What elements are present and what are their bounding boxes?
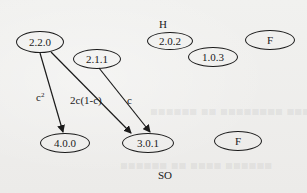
- edges-layer: [0, 0, 307, 193]
- node-label: 2.1.1: [86, 53, 108, 65]
- node-f-bottom: F: [214, 131, 262, 151]
- node-label: 4.0.0: [54, 137, 76, 149]
- node-1-0-3: 1.0.3: [188, 47, 238, 67]
- edge-label-2c-1-minus-c: 2c(1-c): [70, 95, 102, 106]
- node-label: F: [235, 135, 241, 147]
- edge-label-exponent: 2: [41, 91, 45, 99]
- node-label: 2.0.2: [159, 35, 181, 47]
- node-label: 1.0.3: [202, 51, 224, 63]
- region-label-h: H: [159, 19, 167, 30]
- node-label: F: [267, 34, 273, 46]
- node-label: 2.2.0: [29, 36, 51, 48]
- node-3-0-1: 3.0.1: [122, 133, 174, 153]
- node-2-2-0: 2.2.0: [16, 31, 64, 53]
- node-2-1-1: 2.1.1: [73, 49, 121, 69]
- node-2-0-2: 2.0.2: [147, 32, 193, 50]
- edge-label-c: c: [127, 95, 132, 106]
- node-f-top: F: [245, 30, 295, 50]
- edge-label-c-squared: c2: [36, 92, 44, 103]
- node-4-0-0: 4.0.0: [40, 133, 90, 153]
- node-label: 3.0.1: [137, 137, 159, 149]
- edge-211-to-301: [99, 68, 150, 132]
- diagram-canvas: ■■■■■■ ■■ ■■■■■■■■ ■■■■■ ■■■■■■ ■■ ■■■■ …: [0, 0, 307, 193]
- region-label-so: SO: [158, 170, 172, 181]
